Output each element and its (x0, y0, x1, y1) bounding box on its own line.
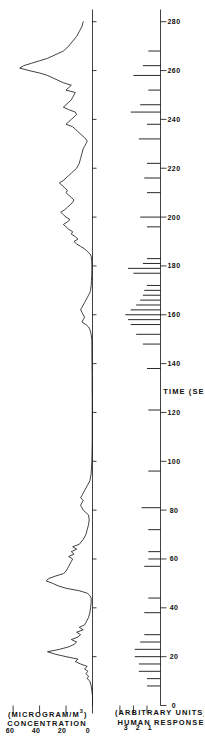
concentration-panel: CONCENTRATION (MICROGRAM/M3) 0 20 40 60 (0, 0, 100, 751)
concentration-plot (0, 0, 100, 751)
concentration-trace (19, 21, 92, 705)
time-axis-label-160: 160 (165, 311, 183, 318)
time-axis-label-60: 60 (165, 555, 183, 562)
time-axis-label-280: 280 (165, 18, 183, 25)
time-axis-label-200: 200 (165, 213, 183, 220)
time-axis-label-20: 20 (165, 653, 183, 660)
time-axis-label-100: 100 (165, 457, 183, 464)
time-axis-label-260: 260 (165, 67, 183, 74)
time-axis-label-0: 0 (165, 702, 183, 709)
human-response-panel: HUMAN RESPONSE (ARBITRARY UNITS) 1 2 3 0… (104, 0, 204, 751)
time-axis-label-80: 80 (165, 506, 183, 513)
time-axis-label-120: 120 (165, 408, 183, 415)
time-axis-label-180: 180 (165, 262, 183, 269)
figure-stage: CONCENTRATION (MICROGRAM/M3) 0 20 40 60 … (0, 0, 204, 751)
time-axis-label-240: 240 (165, 115, 183, 122)
time-axis-label-40: 40 (165, 604, 183, 611)
time-axis-label-140: 140 (165, 360, 183, 367)
time-axis-label-220: 220 (165, 164, 183, 171)
time-axis-title: TIME (SEC) (129, 387, 205, 396)
human-response-plot (104, 0, 204, 751)
